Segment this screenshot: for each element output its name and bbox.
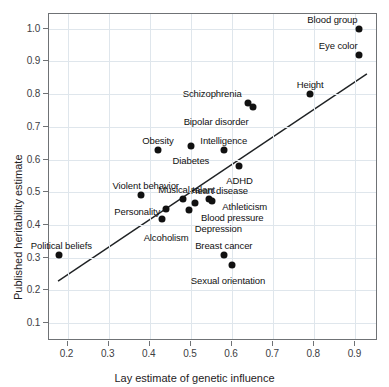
data-point — [187, 143, 194, 150]
gridline-horizontal — [49, 258, 376, 259]
gridline-horizontal — [49, 323, 376, 324]
y-axis-label: Published heritability estimate — [12, 154, 24, 300]
data-point — [307, 91, 314, 98]
data-point-label: Political beliefs — [31, 240, 92, 251]
data-point-label: Height — [297, 79, 324, 90]
x-tick-label: 0.6 — [224, 348, 237, 359]
data-point — [185, 206, 192, 213]
x-tick-label: 0.2 — [60, 348, 73, 359]
trendline — [49, 14, 378, 341]
y-tick-label: 0.1 — [0, 317, 40, 328]
data-point — [56, 251, 63, 258]
data-point — [209, 198, 216, 205]
data-point-label: Obesity — [142, 135, 174, 146]
y-tick-label: 0.8 — [0, 88, 40, 99]
gridline-horizontal — [49, 160, 376, 161]
data-point — [159, 216, 166, 223]
y-tick-label: 1.0 — [0, 22, 40, 33]
y-tick-mark — [43, 159, 48, 160]
data-point-label: Bipolar disorder — [184, 116, 249, 127]
scatter-plot-figure: Blood groupEye colorHeightSchizophreniaB… — [0, 0, 389, 387]
x-tick-label: 0.7 — [265, 348, 278, 359]
x-tick-mark — [231, 341, 232, 346]
data-point-label: Breast cancer — [195, 240, 252, 251]
x-tick-label: 0.4 — [142, 348, 155, 359]
data-point — [236, 163, 243, 170]
data-point-label: Personality — [114, 206, 160, 217]
data-point-label: Heart disease — [191, 185, 248, 196]
data-point-label: ADHD — [226, 175, 253, 186]
data-point-label: Blood pressure — [201, 212, 264, 223]
data-point-label: Intelligence — [200, 135, 247, 146]
data-point — [179, 195, 186, 202]
x-axis-label: Lay estimate of genetic influence — [0, 372, 389, 384]
data-point — [220, 146, 227, 153]
data-point-label: Eye color — [319, 40, 358, 51]
data-point — [191, 200, 198, 207]
x-tick-label: 0.5 — [183, 348, 196, 359]
data-point — [137, 192, 144, 199]
y-tick-mark — [43, 60, 48, 61]
data-point — [356, 51, 363, 58]
data-point — [356, 25, 363, 32]
data-point-label: Schizophrenia — [183, 88, 242, 99]
y-tick-label: 0.7 — [0, 120, 40, 131]
y-tick-mark — [43, 289, 48, 290]
data-point-label: Alcoholism — [144, 232, 189, 243]
x-tick-mark — [108, 341, 109, 346]
gridline-horizontal — [49, 290, 376, 291]
x-tick-mark — [67, 341, 68, 346]
x-tick-label: 0.9 — [348, 348, 361, 359]
plot-area: Blood groupEye colorHeightSchizophreniaB… — [48, 13, 377, 340]
data-point — [249, 104, 256, 111]
data-point-label: Diabetes — [173, 155, 210, 166]
x-tick-label: 0.3 — [101, 348, 114, 359]
y-tick-mark — [43, 257, 48, 258]
x-tick-mark — [354, 341, 355, 346]
y-tick-mark — [43, 322, 48, 323]
x-tick-mark — [313, 341, 314, 346]
data-point-label: Depression — [195, 223, 242, 234]
y-tick-mark — [43, 224, 48, 225]
data-point-label: Sexual orientation — [191, 275, 265, 286]
y-tick-mark — [43, 28, 48, 29]
data-point — [163, 205, 170, 212]
data-point — [154, 146, 161, 153]
y-tick-mark — [43, 93, 48, 94]
x-tick-mark — [149, 341, 150, 346]
data-point-label: Blood group — [307, 14, 357, 25]
y-tick-label: 0.9 — [0, 55, 40, 66]
gridline-horizontal — [49, 29, 376, 30]
x-tick-label: 0.8 — [307, 348, 320, 359]
x-tick-mark — [190, 341, 191, 346]
data-point — [220, 251, 227, 258]
y-tick-mark — [43, 126, 48, 127]
gridline-horizontal — [49, 61, 376, 62]
data-point-label: Athleticism — [222, 201, 267, 212]
data-point — [229, 261, 236, 268]
y-tick-mark — [43, 191, 48, 192]
x-tick-mark — [272, 341, 273, 346]
